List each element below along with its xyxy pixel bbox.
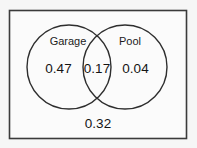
venn-diagram-figure: Garage Pool 0.47 0.17 0.04 0.32 <box>0 0 197 148</box>
value-garage-only: 0.47 <box>45 61 71 76</box>
value-pool-only: 0.04 <box>122 61 149 76</box>
venn-diagram-canvas: Garage Pool 0.47 0.17 0.04 0.32 <box>0 0 197 148</box>
set-label-pool: Pool <box>119 35 141 47</box>
value-outside-neither: 0.32 <box>85 116 111 131</box>
set-label-garage: Garage <box>50 35 87 47</box>
value-intersection: 0.17 <box>84 61 110 76</box>
